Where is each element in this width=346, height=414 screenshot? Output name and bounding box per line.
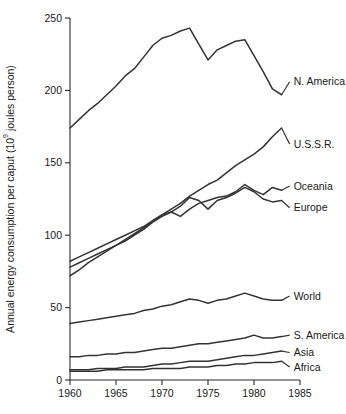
series-line-oceania [70, 185, 282, 262]
series-label-world: World [294, 290, 321, 302]
series-lines [70, 28, 282, 371]
x-axis-tick-label: 1960 [58, 387, 82, 399]
series-line-s-america [70, 335, 282, 357]
series-label-oceania: Oceania [294, 180, 333, 192]
y-axis-title: Annual energy consumption per caput (109… [2, 65, 17, 333]
series-line-u-s-s-r [70, 128, 282, 276]
y-axis-title-tail: joules person) [4, 65, 16, 134]
series-labels: N. AmericaU.S.S.R.OceaniaEuropeWorldS. A… [282, 75, 346, 372]
series-leader-line [282, 335, 290, 336]
x-axis-tick-label: 1975 [196, 387, 220, 399]
series-leader-line [282, 361, 290, 367]
series-label-u-s-s-r: U.S.S.R. [294, 138, 335, 150]
series-label-africa: Africa [294, 361, 321, 373]
x-axis-tick-label: 1970 [150, 387, 174, 399]
series-leader-line [282, 128, 290, 144]
series-line-world [70, 293, 282, 323]
y-axis-tick-label: 50 [50, 301, 62, 313]
series-leader-line [282, 200, 290, 207]
series-leader-line [282, 82, 290, 95]
energy-consumption-chart: 050100150200250 196019651970197519801985… [0, 0, 346, 414]
series-leader-line [282, 296, 290, 300]
x-axis-tick-label: 1980 [242, 387, 266, 399]
x-axis-tick-label: 1985 [288, 387, 312, 399]
series-label-asia: Asia [294, 346, 315, 358]
series-line-asia [70, 351, 282, 370]
y-axis-tick-label: 100 [44, 229, 62, 241]
series-label-n-america: N. America [294, 75, 346, 87]
series-label-europe: Europe [294, 201, 328, 213]
x-axis-tick-label: 1965 [104, 387, 128, 399]
y-axis: 050100150200250 [44, 12, 70, 386]
series-line-n-america [70, 28, 282, 128]
series-leader-line [282, 186, 290, 190]
y-axis-title-text: Annual energy consumption per caput (109… [2, 65, 17, 333]
series-label-s-america: S. America [294, 329, 345, 341]
x-axis: 196019651970197519801985 [58, 380, 312, 399]
series-leader-line [282, 351, 290, 352]
y-axis-tick-label: 0 [56, 374, 62, 386]
y-axis-title-main: Annual energy consumption per caput (10 [4, 138, 16, 333]
chart-svg: 050100150200250 196019651970197519801985… [0, 0, 346, 414]
y-axis-tick-label: 250 [44, 12, 62, 24]
y-axis-tick-label: 150 [44, 156, 62, 168]
y-axis-tick-label: 200 [44, 84, 62, 96]
